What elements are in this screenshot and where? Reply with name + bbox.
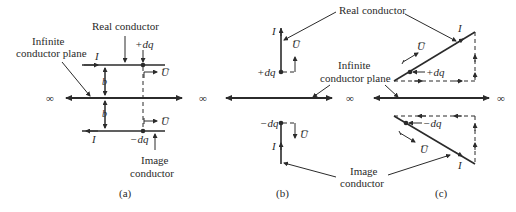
charge-dot-pos-b — [279, 70, 284, 75]
current-label-bottom-c: I — [457, 159, 463, 171]
charge-dot-pos-a — [141, 63, 146, 68]
image-conductor-label-line1-shared: Image — [350, 165, 378, 177]
infinite-plane-label-line2-shared: conductor plane — [320, 72, 391, 84]
infinite-plane-label-line2-a: conductor plane — [16, 47, 87, 59]
infinity-right-c: ∞ — [497, 92, 505, 104]
charge-label-pos-b: +dq — [257, 66, 276, 78]
infinite-plane-label-line1-a: Infinite — [32, 35, 64, 47]
infinite-plane-pointer-b — [313, 85, 330, 97]
caption-a: (a) — [119, 187, 132, 200]
charge-label-neg-a: −dq — [130, 133, 149, 145]
infinite-plane-pointer-a — [62, 62, 90, 96]
panel-b: ∞ ∞ I +dq U̅ I −dq U̅ (b) — [199, 25, 354, 200]
distance-label-top-a: b — [102, 76, 107, 87]
charge-dot-neg-c — [404, 121, 409, 126]
real-conductor-label-a: Real conductor — [92, 20, 159, 32]
image-conductor-pointer-c — [388, 155, 450, 175]
charge-dot-neg-b — [279, 121, 284, 126]
real-conductor-pointer-b — [284, 12, 336, 40]
image-charge-figure: ∞ I +dq Real conductor U̅ I −dq Image co… — [0, 0, 516, 212]
velocity-label-bottom-c: U̅ — [420, 143, 429, 155]
infinity-right-b: ∞ — [346, 92, 354, 104]
image-conductor-label-line1-a: Image — [141, 154, 169, 166]
infinite-plane-pointer-c — [385, 85, 398, 97]
infinity-left-b: ∞ — [199, 92, 207, 104]
velocity-label-bottom-b: U̅ — [300, 128, 309, 140]
current-label-top-c: I — [457, 22, 463, 34]
infinite-plane-label-line1-shared: Infinite — [338, 59, 370, 71]
charge-label-pos-c: +dq — [426, 66, 445, 78]
shared-annotations: Real conductor Infinite conductor plane … — [284, 4, 456, 189]
current-label-top-b: I — [271, 25, 277, 37]
image-conductor-pointer-b — [284, 163, 336, 177]
charge-dot-pos-c — [408, 70, 413, 75]
current-arrow-bottom-c — [455, 152, 462, 156]
velocity-label-top-a: U̅ — [161, 66, 170, 78]
charge-label-neg-b: −dq — [260, 117, 279, 129]
velocity-arrow-top-c — [403, 53, 418, 62]
current-label-bottom-a: I — [91, 133, 97, 145]
infinity-symbol: ∞ — [46, 92, 54, 104]
charge-label-pos-a: +dq — [135, 38, 154, 50]
image-conductor-label-line2-a: conductor — [130, 167, 174, 179]
current-arrow-top-c — [455, 39, 463, 44]
real-conductor-label-shared: Real conductor — [339, 4, 406, 16]
current-label-top-a: I — [94, 50, 100, 62]
figure-canvas: ∞ I +dq Real conductor U̅ I −dq Image co… — [0, 0, 516, 212]
velocity-label-top-b: U̅ — [292, 38, 301, 50]
charge-label-neg-c: −dq — [423, 117, 442, 129]
caption-b: (b) — [276, 187, 289, 200]
real-conductor-pointer-c — [405, 14, 456, 41]
velocity-arrow-bottom-c — [400, 133, 415, 142]
caption-c: (c) — [435, 187, 448, 200]
distance-label-bottom-a: b — [102, 108, 107, 119]
velocity-label-bottom-a: U̅ — [161, 115, 170, 127]
velocity-label-top-c: U̅ — [417, 40, 426, 52]
image-conductor-label-line2-shared: conductor — [340, 177, 384, 189]
current-label-bottom-b: I — [271, 140, 277, 152]
panel-a: ∞ I +dq Real conductor U̅ I −dq Image co… — [16, 20, 182, 200]
